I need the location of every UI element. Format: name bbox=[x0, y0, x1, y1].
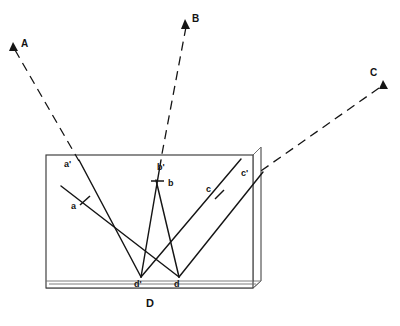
dashed-ray-c-line bbox=[258, 88, 379, 173]
figure-container: A B C a' a b' b c c' d' d D bbox=[0, 0, 400, 326]
label-mirror-d: D bbox=[146, 297, 154, 309]
label-point-d: d bbox=[174, 279, 180, 289]
arrow-heads-group bbox=[9, 19, 388, 89]
label-ray-c: c bbox=[206, 184, 211, 194]
label-ray-b-prime: b' bbox=[157, 162, 165, 172]
dashed-ray-a-line bbox=[15, 50, 79, 161]
mirror-box-right-face bbox=[253, 147, 261, 288]
mirror-box-d bbox=[46, 147, 261, 288]
label-arrow-b: B bbox=[192, 13, 199, 24]
arrow-head-b-icon bbox=[181, 19, 190, 29]
label-arrow-a: A bbox=[21, 38, 28, 49]
arrow-head-a-icon bbox=[9, 42, 18, 51]
label-ray-c-prime: c' bbox=[241, 168, 248, 178]
label-point-d-prime: d' bbox=[134, 279, 142, 289]
dashed-ray-b-line bbox=[161, 27, 186, 159]
label-ray-a-prime: a' bbox=[64, 159, 71, 169]
label-ray-b: b bbox=[168, 178, 174, 188]
dashed-rays-group bbox=[15, 27, 379, 173]
arrow-head-c-icon bbox=[379, 80, 388, 89]
label-arrow-c: C bbox=[370, 67, 377, 78]
ray-diagram-svg: A B C a' a b' b c c' d' d D bbox=[0, 0, 400, 326]
